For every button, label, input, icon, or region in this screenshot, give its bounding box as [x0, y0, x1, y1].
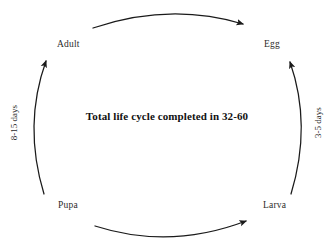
- duration-label-pupa-to-adult: 8-15 days: [10, 101, 19, 145]
- duration-label-egg-to-larva: 3-5 days: [314, 101, 323, 145]
- stage-label-larva: Larva: [263, 201, 286, 211]
- life-cycle-diagram: Adult Egg Larva Pupa 8-15 days 3-5 days …: [0, 0, 334, 251]
- arrow-pupa-to-larva: [95, 221, 246, 237]
- stage-label-adult: Adult: [57, 40, 80, 50]
- stage-label-pupa: Pupa: [58, 201, 78, 211]
- stage-label-egg: Egg: [264, 40, 280, 50]
- cycle-arrows-graphic: [0, 0, 334, 251]
- center-caption: Total life cycle completed in 32-60: [0, 110, 334, 122]
- arrow-adult-to-egg: [93, 14, 243, 28]
- arrow-pupa-to-adult: [34, 61, 46, 194]
- arrow-larva-to-egg: [290, 62, 301, 194]
